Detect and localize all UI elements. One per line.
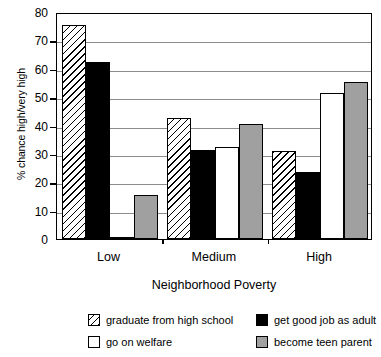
bar	[86, 62, 110, 239]
x-axis-title: Neighborhood Poverty	[56, 278, 372, 292]
y-axis-tick-label: 70	[0, 35, 48, 47]
bar-chart: % chance high/very high 0102030405060708…	[0, 0, 381, 357]
bar	[110, 237, 134, 239]
legend-item: get good job as adult	[256, 312, 376, 328]
bar	[62, 25, 86, 239]
group-separator-tick	[268, 239, 270, 244]
x-axis-tick-label-low: Low	[54, 250, 164, 264]
chart-legend: graduate from high schoolget good job as…	[88, 312, 378, 354]
legend-swatch-icon	[88, 336, 100, 348]
bar	[167, 118, 191, 239]
bar	[320, 93, 344, 239]
y-axis-tick-label: 80	[0, 7, 48, 19]
y-axis-tick-label: 60	[0, 64, 48, 76]
bar	[272, 151, 296, 239]
bar	[215, 147, 239, 239]
y-axis-tick-label: 30	[0, 149, 48, 161]
y-axis-tick-label: 10	[0, 206, 48, 218]
bar	[296, 172, 320, 239]
legend-label: become teen parent	[274, 336, 372, 348]
y-axis-tick-label: 0	[0, 234, 48, 246]
legend-label: go on welfare	[106, 336, 172, 348]
bar	[134, 195, 158, 239]
plot-area	[56, 13, 372, 240]
x-axis-tick-label-medium: Medium	[159, 250, 269, 264]
legend-label: graduate from high school	[106, 314, 233, 326]
gridline	[57, 42, 371, 43]
legend-swatch-icon	[256, 336, 268, 348]
legend-label: get good job as adult	[274, 314, 376, 326]
group-separator-tick	[162, 239, 164, 244]
bar	[191, 150, 215, 239]
legend-item: graduate from high school	[88, 312, 233, 328]
y-axis-tick-label: 40	[0, 121, 48, 133]
bar	[344, 82, 368, 239]
y-axis-tick-label: 20	[0, 177, 48, 189]
legend-item: go on welfare	[88, 334, 172, 350]
bar	[239, 124, 263, 239]
x-axis-tick-label-high: High	[264, 250, 374, 264]
legend-swatch-icon	[256, 314, 268, 326]
y-axis-tick-label: 50	[0, 92, 48, 104]
legend-swatch-icon	[88, 314, 100, 326]
legend-item: become teen parent	[256, 334, 372, 350]
